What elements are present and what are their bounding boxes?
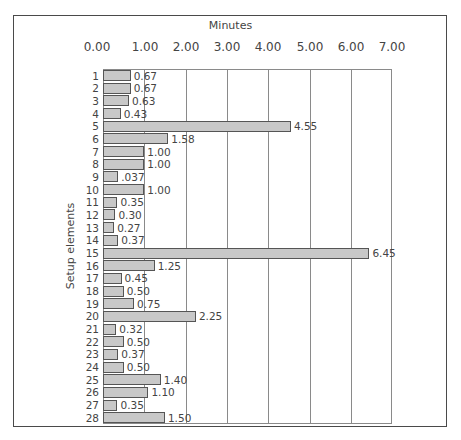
- value-label: 1.40: [164, 374, 187, 386]
- bar: [103, 171, 118, 182]
- value-label: 0.27: [117, 222, 140, 234]
- value-label: 0.67: [134, 82, 157, 94]
- category-label: 20: [77, 310, 99, 322]
- value-label: 4.55: [294, 120, 317, 132]
- bar: [103, 70, 131, 81]
- bar: [103, 349, 118, 360]
- x-tick-label: 0.00: [84, 40, 111, 54]
- bar: [103, 146, 144, 157]
- category-label: 10: [77, 184, 99, 196]
- category-label: 23: [77, 348, 99, 360]
- value-label: 1.00: [147, 158, 170, 170]
- bar: [103, 273, 122, 284]
- value-label: 0.43: [124, 108, 147, 120]
- x-tick-label: 5.00: [297, 40, 324, 54]
- category-label: 11: [77, 196, 99, 208]
- bar: [103, 121, 291, 132]
- value-label: 0.45: [125, 272, 148, 284]
- value-label: 0.75: [137, 298, 160, 310]
- category-label: 17: [77, 272, 99, 284]
- category-label: 15: [77, 247, 99, 259]
- value-label: 0.67: [134, 70, 157, 82]
- bar: [103, 311, 196, 322]
- value-label: 0.30: [118, 209, 141, 221]
- bar: [103, 184, 144, 195]
- value-label: 0.50: [127, 336, 150, 348]
- bar: [103, 95, 129, 106]
- value-label: .037: [121, 171, 144, 183]
- bar: [103, 248, 369, 259]
- bar: [103, 400, 117, 411]
- gridline: [351, 69, 352, 424]
- bar: [103, 336, 124, 347]
- value-label: 2.25: [199, 310, 222, 322]
- value-label: 0.50: [127, 285, 150, 297]
- category-label: 6: [77, 133, 99, 145]
- bar: [103, 197, 117, 208]
- value-label: 0.37: [121, 234, 144, 246]
- category-label: 27: [77, 399, 99, 411]
- y-axis-title: Setup elements: [64, 203, 77, 290]
- value-label: 0.50: [127, 361, 150, 373]
- category-label: 24: [77, 361, 99, 373]
- bar: [103, 387, 148, 398]
- x-tick-label: 3.00: [214, 40, 241, 54]
- value-label: 1.25: [158, 260, 181, 272]
- bar: [103, 298, 134, 309]
- bar: [103, 159, 144, 170]
- value-label: 0.63: [132, 95, 155, 107]
- x-tick-label: 1.00: [132, 40, 159, 54]
- value-label: 1.58: [171, 133, 194, 145]
- bar: [103, 324, 116, 335]
- category-label: 22: [77, 336, 99, 348]
- x-tick-label: 7.00: [379, 40, 406, 54]
- bar: [103, 235, 118, 246]
- category-label: 5: [77, 120, 99, 132]
- value-label: 0.37: [121, 348, 144, 360]
- category-label: 9: [77, 171, 99, 183]
- value-label: 6.45: [372, 247, 395, 259]
- bar: [103, 108, 121, 119]
- x-axis-title: Minutes: [0, 19, 461, 32]
- category-label: 7: [77, 146, 99, 158]
- value-label: 1.10: [151, 386, 174, 398]
- category-label: 4: [77, 108, 99, 120]
- category-label: 21: [77, 323, 99, 335]
- category-label: 14: [77, 234, 99, 246]
- category-label: 16: [77, 260, 99, 272]
- value-label: 1.00: [147, 146, 170, 158]
- bar: [103, 222, 114, 233]
- category-label: 28: [77, 412, 99, 424]
- category-label: 1: [77, 70, 99, 82]
- category-label: 2: [77, 82, 99, 94]
- x-tick-label: 4.00: [255, 40, 282, 54]
- bar: [103, 374, 161, 385]
- bar: [103, 412, 165, 423]
- bar: [103, 133, 168, 144]
- category-label: 13: [77, 222, 99, 234]
- category-label: 18: [77, 285, 99, 297]
- bar: [103, 362, 124, 373]
- bar: [103, 209, 115, 220]
- bar: [103, 260, 155, 271]
- category-label: 26: [77, 386, 99, 398]
- value-label: 0.35: [120, 399, 143, 411]
- bar: [103, 83, 131, 94]
- category-label: 19: [77, 298, 99, 310]
- x-tick-label: 6.00: [338, 40, 365, 54]
- value-label: 0.32: [119, 323, 142, 335]
- category-label: 3: [77, 95, 99, 107]
- category-label: 25: [77, 374, 99, 386]
- x-tick-label: 2.00: [173, 40, 200, 54]
- category-label: 12: [77, 209, 99, 221]
- bar: [103, 286, 124, 297]
- category-label: 8: [77, 158, 99, 170]
- value-label: 1.50: [168, 412, 191, 424]
- value-label: 0.35: [120, 196, 143, 208]
- value-label: 1.00: [147, 184, 170, 196]
